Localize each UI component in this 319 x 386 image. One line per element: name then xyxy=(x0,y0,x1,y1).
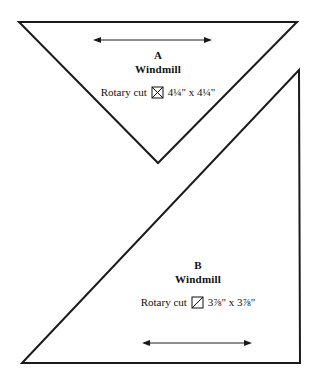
piece-b-letter: B xyxy=(98,258,298,272)
piece-label-a: A Windmill Rotary cut 4¼" x 4¼" xyxy=(58,48,258,100)
dimension-arrow-b xyxy=(142,340,252,346)
piece-a-name: Windmill xyxy=(58,62,258,77)
piece-label-b: B Windmill Rotary cut 3⅞" x 3⅞" xyxy=(98,258,298,310)
dimension-arrow-a xyxy=(93,37,212,43)
piece-a-letter: A xyxy=(58,48,258,62)
piece-b-cut-prefix: Rotary cut xyxy=(141,294,187,310)
piece-a-cut-prefix: Rotary cut xyxy=(101,84,147,100)
piece-b-name: Windmill xyxy=(98,272,298,287)
triangle-b-outline xyxy=(22,70,300,363)
pattern-template-page: A Windmill Rotary cut 4¼" x 4¼" B Windmi… xyxy=(0,0,319,386)
half-square-triangle-icon xyxy=(191,296,204,309)
piece-b-cut-instruction: Rotary cut 3⅞" x 3⅞" xyxy=(98,294,298,310)
piece-b-dimensions: 3⅞" x 3⅞" xyxy=(208,294,255,310)
piece-a-dimensions: 4¼" x 4¼" xyxy=(168,84,215,100)
quarter-square-triangle-icon xyxy=(151,86,164,99)
piece-a-cut-instruction: Rotary cut 4¼" x 4¼" xyxy=(58,84,258,100)
